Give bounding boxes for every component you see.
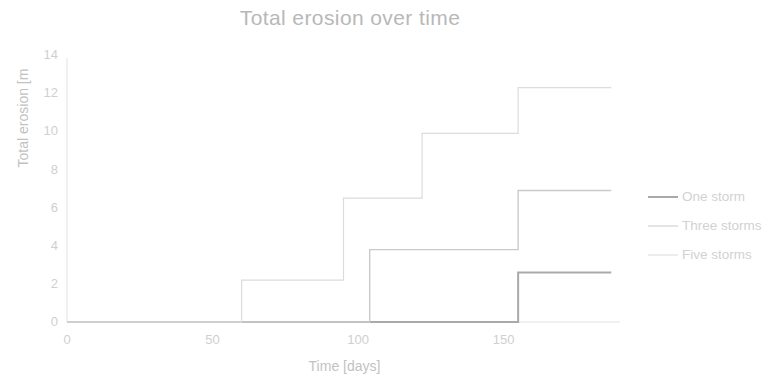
legend-entry[interactable]: Five storms xyxy=(648,240,780,269)
legend-label: Three storms xyxy=(682,218,762,233)
legend-label: One storm xyxy=(682,189,745,204)
chart-legend: One stormThree stormsFive storms xyxy=(648,182,780,269)
series-line-2 xyxy=(67,88,611,322)
legend-line-swatch-icon xyxy=(648,249,678,261)
series-line-1 xyxy=(67,191,611,322)
legend-line-swatch-icon xyxy=(648,220,678,232)
legend-entry[interactable]: One storm xyxy=(648,182,780,211)
chart-figure: Total erosion over time Total erosion [m… xyxy=(0,0,780,386)
legend-entry[interactable]: Three storms xyxy=(648,211,780,240)
legend-label: Five storms xyxy=(682,247,752,262)
legend-line-swatch-icon xyxy=(648,191,678,203)
